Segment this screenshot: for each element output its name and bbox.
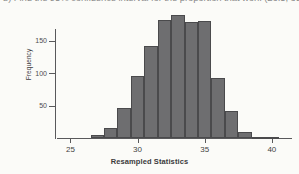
x-axis-tick-label: 35 (193, 145, 217, 154)
x-axis-tick (272, 139, 273, 143)
histogram-bar (211, 78, 224, 138)
histogram-bar (185, 22, 198, 138)
x-axis-tick-label: 40 (260, 145, 284, 154)
top-text-line: b) Find the 95% confidence interval for … (3, 0, 299, 3)
y-axis-tick (49, 106, 55, 107)
y-axis-tick (49, 41, 55, 42)
histogram-bar (198, 21, 211, 138)
histogram-bar (225, 111, 238, 138)
histogram-bar (238, 132, 251, 138)
histogram-bar (91, 135, 104, 138)
cropped-top-text: b) Find the 95% confidence interval for … (0, 0, 299, 9)
histogram-bar (117, 108, 130, 138)
histogram-bar (252, 137, 265, 139)
x-axis-tick-label: 25 (58, 145, 82, 154)
histogram-bar (104, 128, 117, 138)
x-axis-title: Resampled Statistics (0, 157, 299, 166)
histogram-figure: 50100150 25303540 Frequency Resampled St… (0, 9, 299, 174)
histogram-bar (131, 76, 144, 138)
histogram-bar (171, 15, 184, 138)
y-axis-tick-label: 50 (21, 102, 47, 109)
x-axis-tick (138, 139, 139, 143)
histogram-bar (144, 46, 157, 138)
histogram-bar (158, 20, 171, 138)
x-axis-tick-label: 30 (126, 145, 150, 154)
x-axis-tick (205, 139, 206, 143)
plot-area: 50100150 25303540 Frequency Resampled St… (0, 9, 299, 174)
y-axis-title: Frequency (25, 37, 32, 93)
y-axis-tick (49, 73, 55, 74)
x-axis-tick (70, 139, 71, 143)
